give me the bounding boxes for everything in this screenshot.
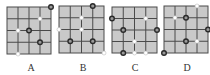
dark-dot-icon (90, 4, 95, 9)
option-label-a: A (21, 62, 41, 74)
white-dot-icon (195, 4, 199, 8)
dark-dot-icon (184, 39, 189, 44)
white-dot-icon (80, 16, 84, 20)
dark-dot-icon (68, 39, 73, 44)
dark-dot-icon (121, 28, 126, 33)
white-dot-icon (16, 29, 20, 33)
white-dot-icon (133, 51, 137, 55)
dark-dot-icon (27, 28, 32, 33)
option-label-b: B (73, 62, 93, 74)
white-dot-icon (102, 51, 106, 55)
white-dot-icon (144, 17, 148, 21)
white-dot-icon (133, 40, 137, 44)
grid-option-a (7, 5, 53, 56)
dark-dot-icon (110, 16, 115, 21)
dark-dot-icon (90, 39, 95, 44)
white-dot-icon (195, 39, 199, 43)
option-label-c: C (125, 62, 145, 74)
white-dot-icon (57, 28, 61, 32)
white-dot-icon (144, 51, 148, 55)
dark-dot-icon (121, 51, 126, 56)
grid-option-b (57, 4, 106, 55)
white-dot-icon (16, 52, 20, 56)
grid-option-c (110, 7, 160, 55)
grid-option-d (162, 4, 210, 55)
dark-dot-icon (49, 5, 54, 10)
dark-dot-icon (155, 28, 160, 33)
white-dot-icon (173, 16, 177, 20)
dark-dot-icon (38, 40, 43, 45)
dark-dot-icon (162, 51, 167, 56)
white-dot-icon (80, 28, 84, 32)
white-dot-icon (38, 17, 42, 21)
dark-dot-icon (184, 15, 189, 20)
option-label-d: D (177, 62, 197, 74)
dark-dot-icon (206, 27, 210, 32)
